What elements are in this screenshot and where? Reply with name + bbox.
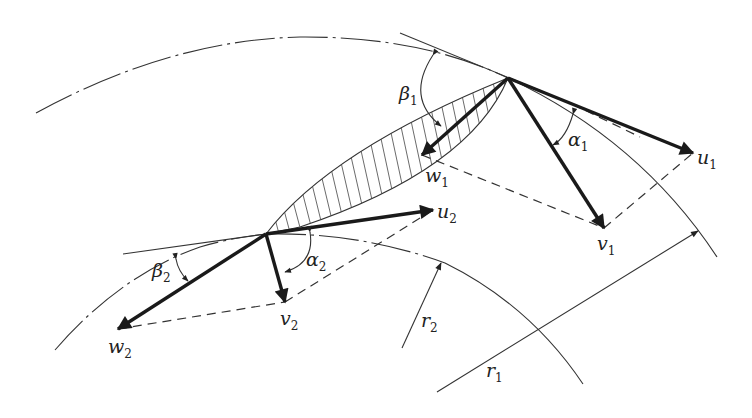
label-w1: w1 (425, 164, 449, 190)
radius-arrow-r2 (402, 263, 441, 348)
label-u1: u1 (697, 146, 717, 172)
vector-w1 (422, 78, 508, 155)
label-beta1: β1 (398, 82, 418, 108)
label-v1: v1 (597, 232, 615, 258)
label-beta2: β2 (151, 259, 171, 285)
tangent-line-inner (123, 234, 266, 254)
velocity-triangle-diagram: β1 α1 w1 u1 v1 β2 α2 w2 u2 v2 r2 r1 (0, 0, 752, 418)
vector-w2 (118, 234, 266, 329)
vector-v1 (508, 78, 604, 228)
label-alpha1: α1 (568, 128, 588, 154)
vector-v2 (266, 234, 285, 302)
angle-arc-beta2 (176, 259, 188, 281)
label-v2: v2 (280, 307, 298, 333)
label-alpha2: α2 (306, 248, 326, 274)
label-w2: w2 (108, 335, 132, 361)
label-u2: u2 (437, 200, 457, 226)
label-r2: r2 (421, 309, 438, 335)
label-r1: r1 (486, 359, 503, 385)
outer-circle-r1 (36, 37, 717, 257)
radius-arrow-r1 (437, 231, 698, 392)
vector-u2 (266, 210, 433, 234)
inner-circle-r2 (55, 234, 583, 384)
vector-u1 (508, 78, 693, 153)
